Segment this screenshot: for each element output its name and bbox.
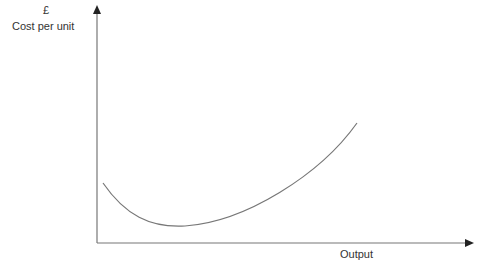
y-axis-label: Cost per unit [12, 20, 74, 32]
y-axis-unit: £ [43, 4, 49, 16]
y-axis-arrow-icon [93, 5, 101, 14]
cost-curve [103, 123, 357, 226]
x-axis-label: Output [340, 248, 373, 260]
axes-and-curve [0, 0, 484, 267]
x-axis-arrow-icon [465, 239, 474, 247]
